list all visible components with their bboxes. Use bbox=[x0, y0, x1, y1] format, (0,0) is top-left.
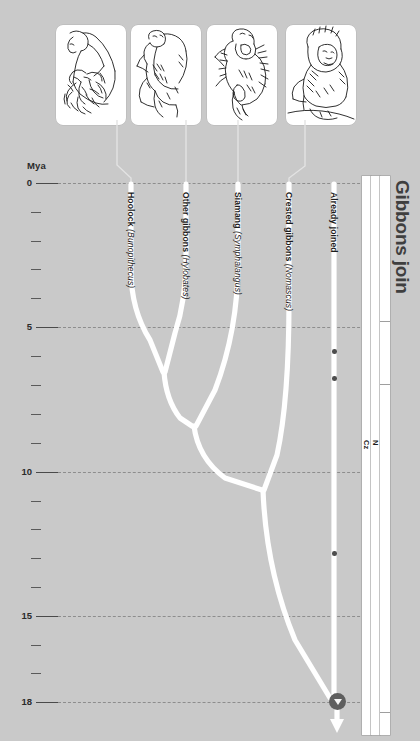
down-arrow-icon bbox=[334, 699, 342, 705]
geo-divider-epoch-1 bbox=[380, 321, 390, 322]
taxon-label-crested-gibbons: Crested gibbons (Nomascus) bbox=[284, 192, 294, 311]
root-node-marker[interactable] bbox=[329, 693, 346, 710]
geo-column-period bbox=[371, 176, 380, 735]
event-dot-1 bbox=[332, 349, 337, 354]
branch-siamang bbox=[196, 184, 238, 426]
event-dot-2 bbox=[332, 376, 337, 381]
taxon-label-other-gibbons: Other gibbons (Hylobates) bbox=[181, 192, 191, 300]
taxon-common-name-hoolock: Hoolock bbox=[126, 192, 136, 229]
branch-crown-stem bbox=[263, 490, 330, 698]
taxon-common-name-crested-gibbons: Crested gibbons bbox=[284, 192, 294, 264]
branch-hoolock-other-stem bbox=[164, 372, 192, 426]
figure-title: Gibbons join bbox=[391, 180, 413, 294]
event-dot-3 bbox=[332, 551, 337, 556]
geo-label-era-cz: Cz bbox=[362, 440, 371, 449]
taxon-label-hoolock: Hoolock (Bunopithecus) bbox=[126, 192, 136, 288]
taxon-scientific-name-siamang: (Symphalangus) bbox=[233, 231, 243, 295]
taxon-scientific-name-hoolock: (Bunopithecus) bbox=[126, 229, 136, 288]
taxon-label-siamang: Siamang (Symphalangus) bbox=[233, 192, 243, 295]
branch-clade-stem bbox=[194, 426, 262, 490]
geo-divider-epoch-3 bbox=[380, 712, 390, 713]
taxon-scientific-name-other-gibbons: (Hylobates) bbox=[181, 255, 191, 300]
root-arrow-head bbox=[330, 719, 344, 733]
phylogeny-tree bbox=[0, 0, 420, 741]
geo-column-epoch bbox=[380, 176, 390, 735]
geo-divider-epoch-2 bbox=[380, 384, 390, 385]
geo-label-period-n: N bbox=[371, 440, 380, 445]
taxon-common-name-other-gibbons: Other gibbons bbox=[181, 192, 191, 255]
geo-column-era bbox=[362, 176, 371, 735]
figure-root: Mya 0 5 10 15 18 bbox=[0, 0, 420, 741]
taxon-common-name-siamang: Siamang bbox=[233, 192, 243, 231]
taxon-label-already-joined: Already joined bbox=[329, 192, 339, 253]
taxon-scientific-name-crested-gibbons: (Nomascus) bbox=[284, 264, 294, 311]
